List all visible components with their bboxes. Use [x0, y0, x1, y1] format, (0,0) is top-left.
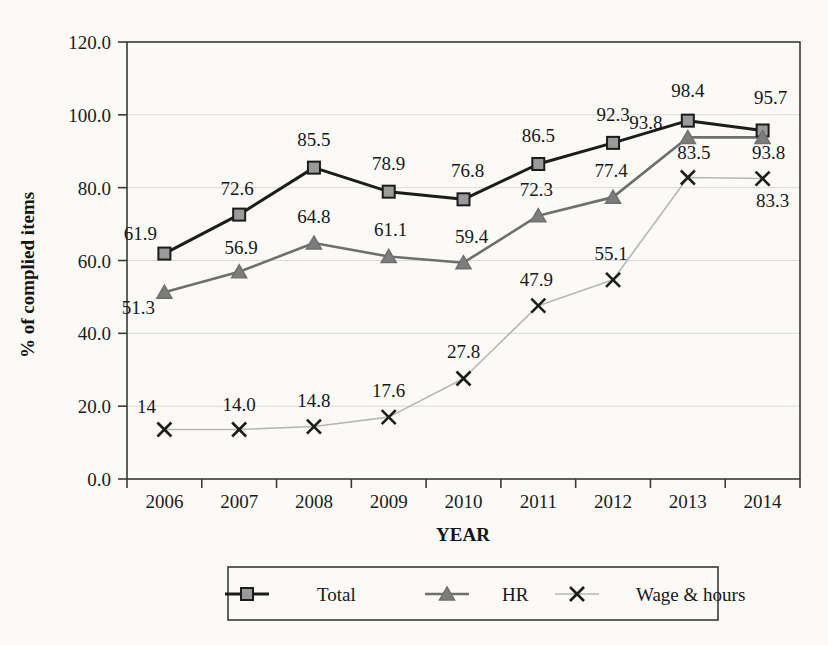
x-tick-label: 2011	[520, 491, 557, 512]
data-point-label: 85.5	[297, 129, 330, 150]
marker-cross	[531, 299, 545, 313]
data-point-label: 51.3	[122, 297, 155, 318]
data-point-label: 98.4	[671, 80, 705, 101]
marker-square	[158, 248, 170, 260]
data-point-label: 76.8	[451, 160, 484, 181]
legend-label: Total	[317, 584, 356, 605]
x-axis-title: YEAR	[436, 524, 490, 545]
chart-page: 0.020.040.060.080.0100.0120.0 2006200720…	[0, 0, 828, 645]
marker-square	[233, 209, 245, 221]
data-point-label: 14.0	[223, 394, 256, 415]
x-tick-label: 2009	[370, 491, 408, 512]
data-point-label: 61.9	[124, 223, 157, 244]
y-tick-label: 120.0	[68, 32, 111, 53]
data-point-label: 55.1	[594, 243, 627, 264]
y-axis-title: % of complied items	[17, 192, 38, 358]
marker-square	[607, 137, 619, 149]
y-tick-label: 100.0	[68, 105, 111, 126]
data-point-label: 59.4	[455, 226, 489, 247]
x-axis-tick-labels: 200620072008200920102011201220132014	[145, 491, 782, 512]
marker-triangle	[232, 265, 247, 278]
y-tick-label: 20.0	[78, 396, 111, 417]
data-point-label: 72.3	[520, 179, 553, 200]
data-point-label: 92.3	[596, 104, 629, 125]
data-point-label: 56.9	[225, 237, 258, 258]
marker-cross	[457, 371, 471, 385]
data-point-label: 83.5	[677, 142, 710, 163]
legend-label: HR	[502, 584, 529, 605]
legend-label: Wage & hours	[636, 584, 745, 605]
marker-square	[241, 588, 253, 600]
series-line	[164, 177, 762, 429]
data-labels: 61.972.685.578.976.886.592.398.495.751.3…	[122, 80, 789, 418]
data-point-label: 61.1	[374, 219, 407, 240]
data-point-label: 64.8	[297, 206, 330, 227]
data-point-label: 72.6	[221, 178, 254, 199]
data-point-label: 17.6	[372, 380, 405, 401]
data-point-label: 93.8	[629, 112, 662, 133]
data-point-label: 14.8	[297, 390, 330, 411]
y-tick-label: 40.0	[78, 323, 111, 344]
chart-legend: TotalHRWage & hours	[225, 567, 745, 620]
marker-square	[458, 193, 470, 205]
marker-square	[532, 158, 544, 170]
x-tick-label: 2014	[744, 491, 783, 512]
data-point-label: 86.5	[522, 125, 555, 146]
x-tick-label: 2006	[145, 491, 183, 512]
x-tick-label: 2013	[669, 491, 707, 512]
data-point-label: 14	[137, 396, 157, 417]
y-tick-label: 60.0	[78, 251, 111, 272]
y-axis-tick-labels: 0.020.040.060.080.0100.0120.0	[68, 32, 111, 490]
y-tick-label: 80.0	[78, 178, 111, 199]
x-tick-label: 2007	[220, 491, 258, 512]
data-point-label: 77.4	[594, 160, 628, 181]
data-point-label: 27.8	[447, 341, 480, 362]
data-point-label: 83.3	[756, 190, 789, 211]
y-tick-label: 0.0	[87, 469, 111, 490]
data-point-label: 93.8	[752, 142, 785, 163]
x-tick-label: 2010	[445, 491, 483, 512]
line-chart: 0.020.040.060.080.0100.0120.0 2006200720…	[0, 0, 828, 645]
marker-square	[308, 162, 320, 174]
x-tick-label: 2008	[295, 491, 333, 512]
x-axis-ticks	[127, 479, 800, 488]
data-point-label: 47.9	[520, 269, 553, 290]
marker-square	[383, 186, 395, 198]
y-axis-ticks	[118, 42, 127, 479]
data-point-label: 95.7	[754, 87, 787, 108]
data-point-label: 78.9	[372, 153, 405, 174]
x-tick-label: 2012	[594, 491, 632, 512]
marker-cross	[606, 273, 620, 287]
marker-square	[682, 115, 694, 127]
marker-triangle	[306, 236, 321, 249]
